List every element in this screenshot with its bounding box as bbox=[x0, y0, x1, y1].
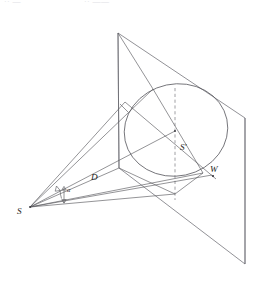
cone-lower-left-edge bbox=[30, 168, 119, 207]
label-projected-point: S′ bbox=[180, 142, 188, 152]
chord-major bbox=[125, 102, 216, 179]
cone-generator-upper bbox=[30, 89, 153, 207]
plane-left-edge bbox=[118, 33, 119, 168]
label-apex: S bbox=[17, 206, 22, 216]
clipped-header-left: ·· — bbox=[4, 0, 21, 6]
ellipse-edge-marker bbox=[212, 175, 214, 177]
label-distance: D bbox=[90, 172, 98, 182]
cone-base-ellipse bbox=[116, 74, 237, 186]
clipped-header-text: ·· — ·· —— bbox=[0, 0, 266, 9]
clipped-header-right: ·· —— bbox=[84, 0, 109, 6]
chord-axis bbox=[153, 89, 203, 173]
projected-point-marker bbox=[174, 130, 176, 132]
angle-arrowhead-upper bbox=[55, 186, 60, 191]
apex-point-marker bbox=[29, 206, 31, 208]
figure-root: ·· — ·· —— bbox=[0, 0, 266, 288]
plane-top-to-ellipse bbox=[118, 33, 153, 89]
chord-tick bbox=[120, 104, 128, 112]
cone-axis-line bbox=[30, 131, 175, 207]
geometry-diagram: S α D S′ W bbox=[0, 0, 266, 288]
label-width: W bbox=[210, 164, 219, 174]
